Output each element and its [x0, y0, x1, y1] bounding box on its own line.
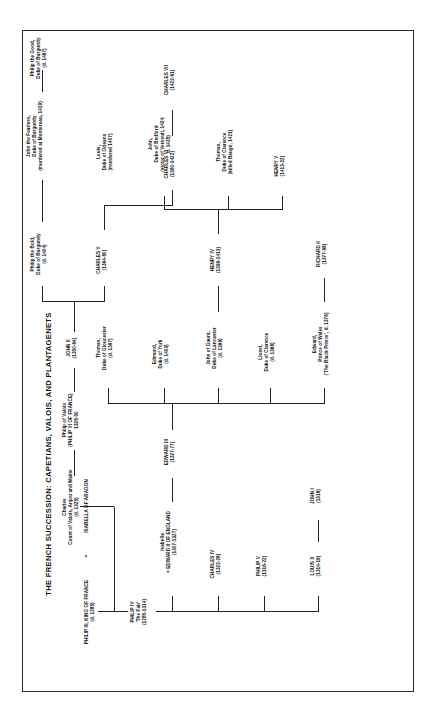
node-line: ('The Black Prince', d. 1376): [324, 312, 330, 375]
node-louis-orleans: Louis, Duke of Orleans (murdered 1407): [96, 133, 114, 170]
node-edward3: EDWARD III (1327-77): [164, 439, 176, 465]
connector: [104, 206, 105, 230]
node-philip-bold: Philip the Bold, Duke of Burgundy (d. 14…: [30, 233, 48, 274]
connector: [324, 278, 325, 302]
node-line: (1364-80): [102, 246, 108, 273]
node-line: (1307-1327): [172, 511, 178, 573]
node-john-bedford: John, Duke of Bedford (victor of Verneui…: [148, 116, 172, 172]
node-richard2: RICHARD II (1377-99): [316, 241, 328, 267]
connector: [114, 507, 115, 612]
node-line: (d. 1403): [164, 339, 170, 368]
connector: [74, 302, 75, 332]
connector: [172, 478, 173, 502]
node-charles5: CHARLES V (1364-80): [96, 246, 108, 273]
connector: [108, 388, 109, 404]
connector: [156, 611, 170, 612]
node-line: (1327-77): [170, 439, 176, 465]
node-line: (murdered 1407): [108, 133, 114, 170]
connector: [172, 404, 173, 430]
node-henry4: HENRY IV (1399-1413): [210, 247, 222, 273]
connector: [108, 403, 324, 404]
node-isabella-edward2: Isabella = EDWARD II OF ENGLAND (1307-13…: [160, 511, 178, 573]
connector: [218, 596, 219, 612]
node-philip4: PHILIP IV 'The Fair' (1285-1314): [130, 599, 148, 625]
node-charles7: CHARLES VII (1422-61): [164, 65, 176, 95]
connector: [164, 196, 165, 210]
node-line: (d. 1285): [90, 580, 96, 644]
node-line: (murdered at Montereau, 1419): [38, 101, 44, 171]
node-line: (d. 1399): [218, 327, 224, 368]
node-line: (d. 1404): [42, 233, 48, 274]
connector: [264, 596, 265, 612]
connector: [218, 286, 219, 312]
node-charles4: CHARLES IV (1322-28): [210, 550, 222, 579]
node-line: (killed Baugé, 1421): [228, 130, 234, 175]
node-line: (1422-61): [170, 65, 176, 95]
node-line: (1377-99): [322, 241, 328, 267]
node-philip-valois: Philip of Valois (PHILIP VI OF FRANCE) 1…: [62, 393, 80, 446]
connector: [98, 611, 114, 612]
node-line: (d. 1325): [74, 469, 80, 545]
node-line: (1399-1413): [216, 247, 222, 273]
node-edmund-york: Edmund, Duke of York (d. 1403): [152, 339, 170, 368]
diagram-canvas: THE FRENCH SUCCESSION: CAPETIANS, VALOIS…: [22, 30, 414, 692]
connector: [42, 301, 104, 302]
node-thomas-gloucester: Thomas, Duke of Gloucester (d. 1397): [96, 326, 114, 370]
node-line: (1413-22): [280, 156, 286, 177]
connector: [318, 596, 319, 612]
marriage-symbol: =: [84, 555, 90, 558]
connector: [114, 611, 128, 612]
page-title: THE FRENCH SUCCESSION: CAPETIANS, VALOIS…: [44, 312, 53, 595]
connector: [218, 210, 219, 234]
connector: [270, 388, 271, 404]
node-line: (1322-28): [216, 550, 222, 579]
connector: [282, 196, 283, 210]
node-edward-black-prince: Edward, Prince of Wales ('The Black Prin…: [312, 312, 330, 375]
connector: [42, 180, 43, 222]
node-line: d. 1435): [166, 116, 172, 172]
node-philip3: PHILIP III, KING OF FRANCE (d. 1285): [84, 580, 96, 644]
node-line: (1285-1314): [142, 599, 148, 625]
node-philip-good: Philip the Good, Duke of Burgundy (d. 14…: [30, 37, 48, 78]
node-line: (1316): [316, 488, 322, 504]
node-philip5: PHILIP V (1316-22): [256, 556, 268, 577]
connector: [74, 368, 75, 392]
node-henry5: HENRY V (1413-22): [274, 156, 286, 177]
connector: [42, 286, 43, 302]
connector: [172, 596, 173, 612]
node-john1: JOHN I (1316): [310, 488, 322, 504]
diagram-viewport: THE FRENCH SUCCESSION: CAPETIANS, VALOIS…: [22, 30, 414, 692]
connector: [164, 388, 165, 404]
node-thomas-clarence: Thomas, Duke of Clarence (killed Baugé, …: [216, 130, 234, 175]
node-line: =: [84, 555, 90, 558]
node-line: (d. 1368): [270, 332, 276, 371]
connector: [218, 388, 219, 404]
connector: [324, 388, 325, 404]
connector: [228, 196, 229, 210]
connector: [170, 611, 318, 612]
connector: [104, 286, 105, 302]
connector: [164, 209, 282, 210]
node-line: 1328-50: [74, 393, 80, 446]
node-line: (d. 1467): [42, 37, 48, 78]
node-line: (1316-22): [262, 556, 268, 577]
connector: [74, 450, 75, 476]
node-lionel-clarence: Lionel, Duke of Clarence (d. 1368): [258, 332, 276, 371]
node-john-gaunt: John of Gaunt, Duke of Lancaster (d. 139…: [206, 327, 224, 368]
node-john2: JOHN II (1350-64): [66, 338, 78, 359]
node-john-fearless: John the Fearless, Duke of Burgundy (mur…: [26, 101, 44, 171]
chart-page: THE FRENCH SUCCESSION: CAPETIANS, VALOIS…: [0, 0, 436, 723]
node-line: (d. 1397): [108, 326, 114, 370]
connector: [80, 506, 114, 507]
node-line: (1314-16): [316, 556, 322, 577]
node-line: (1350-64): [72, 338, 78, 359]
node-charles-valois: Charles Count of Valois, Anjou and Maine…: [62, 469, 80, 545]
node-louis10: LOUIS X (1314-16): [310, 556, 322, 577]
connector: [104, 205, 172, 206]
connector: [172, 190, 173, 206]
connector: [318, 520, 319, 542]
